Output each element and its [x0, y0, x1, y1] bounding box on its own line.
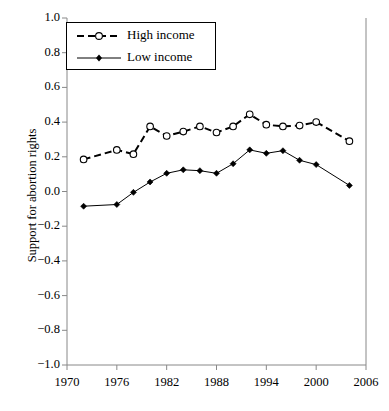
- x-tick-label: 1976: [92, 375, 142, 390]
- data-point: [313, 119, 320, 126]
- y-tick-label: −0.8: [10, 322, 60, 337]
- data-point: [263, 150, 269, 156]
- legend-sample-dashed-open-circle: [75, 24, 123, 48]
- y-tick-label: −1.0: [10, 357, 60, 372]
- y-tick-label: 0.4: [10, 114, 60, 129]
- data-point: [280, 123, 287, 130]
- data-point: [280, 148, 286, 154]
- axes: [67, 18, 366, 365]
- data-point: [213, 129, 220, 136]
- legend-item-high-income: High income: [67, 24, 217, 48]
- data-point: [163, 133, 170, 140]
- x-tick-marks: [67, 365, 366, 370]
- data-point: [214, 170, 220, 176]
- legend-item-low-income: Low income: [67, 46, 217, 70]
- series-high-income: [80, 111, 352, 163]
- data-point: [313, 162, 319, 168]
- data-point: [230, 123, 237, 130]
- y-tick-label: −0.6: [10, 288, 60, 303]
- data-point: [130, 151, 137, 158]
- data-point: [147, 123, 154, 130]
- data-point: [296, 122, 303, 129]
- x-tick-label: 1988: [192, 375, 242, 390]
- data-point: [297, 157, 303, 163]
- data-point: [147, 179, 153, 185]
- x-tick-label: 1994: [241, 375, 291, 390]
- data-point: [246, 111, 253, 118]
- series-line: [84, 114, 350, 159]
- y-tick-label: −0.4: [10, 253, 60, 268]
- x-tick-label: 1970: [42, 375, 92, 390]
- data-point: [114, 147, 121, 154]
- legend: High income Low income: [66, 22, 216, 70]
- data-point: [346, 182, 352, 188]
- data-point: [346, 138, 353, 145]
- data-series-group: [80, 111, 352, 209]
- y-tick-label: −0.2: [10, 218, 60, 233]
- data-point: [263, 121, 270, 128]
- x-tick-label: 1982: [142, 375, 192, 390]
- y-tick-label: 0.8: [10, 45, 60, 60]
- series-low-income: [81, 147, 353, 209]
- x-tick-label: 2000: [291, 375, 341, 390]
- y-tick-label: 0.2: [10, 149, 60, 164]
- data-point: [180, 167, 186, 173]
- data-point: [197, 123, 204, 130]
- data-point: [81, 203, 87, 209]
- y-tick-label: 0.6: [10, 79, 60, 94]
- legend-sample-solid-filled-diamond: [75, 46, 123, 70]
- data-point: [164, 170, 170, 176]
- x-tick-label: 2006: [341, 375, 389, 390]
- data-point: [180, 128, 187, 135]
- y-tick-marks: [62, 18, 67, 365]
- legend-label-high-income: High income: [127, 27, 195, 43]
- legend-label-low-income: Low income: [127, 49, 192, 65]
- y-tick-label: 1.0: [10, 10, 60, 25]
- data-point: [80, 156, 87, 163]
- chart-container: Support for abortion rights 1.00.80.60.4…: [0, 0, 389, 411]
- series-line: [84, 150, 350, 206]
- y-tick-label: 0.0: [10, 184, 60, 199]
- data-point: [197, 168, 203, 174]
